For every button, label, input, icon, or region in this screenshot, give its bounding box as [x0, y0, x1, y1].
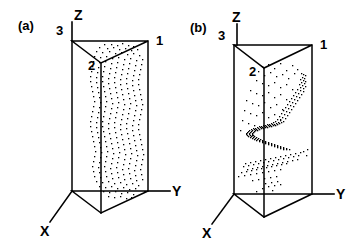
- scatter-point: [275, 121, 276, 122]
- scatter-point: [264, 102, 265, 103]
- scatter-point: [120, 129, 121, 130]
- scatter-point: [128, 113, 129, 114]
- scatter-point: [300, 87, 301, 88]
- scatter-point: [93, 171, 94, 172]
- scatter-point: [120, 196, 121, 197]
- panel-a-x-axis-arm: [50, 191, 72, 222]
- scatter-point: [93, 141, 94, 142]
- scatter-point: [254, 125, 255, 126]
- scatter-point: [99, 107, 100, 108]
- scatter-point: [120, 84, 121, 85]
- scatter-point: [279, 123, 280, 124]
- scatter-point: [130, 58, 131, 59]
- scatter-point: [104, 91, 105, 92]
- scatter-point: [305, 75, 306, 76]
- scatter-point: [106, 156, 107, 157]
- scatter-point: [268, 161, 269, 162]
- scatter-point: [290, 105, 291, 106]
- scatter-point: [256, 115, 257, 116]
- scatter-point: [108, 78, 109, 79]
- scatter-point: [132, 130, 133, 131]
- scatter-point: [127, 118, 128, 119]
- scatter-point: [242, 120, 243, 121]
- scatter-point: [138, 84, 139, 85]
- scatter-point: [262, 83, 263, 84]
- panel-b-vertex-1-label: 1: [320, 37, 327, 52]
- scatter-point: [293, 156, 294, 157]
- scatter-point: [141, 99, 142, 100]
- scatter-point: [135, 188, 136, 189]
- scatter-point: [114, 77, 115, 78]
- scatter-point: [250, 162, 251, 163]
- scatter-point: [105, 141, 106, 142]
- panel-b-top-face: [234, 45, 312, 68]
- scatter-point: [276, 76, 277, 77]
- scatter-point: [268, 117, 269, 118]
- scatter-point: [114, 82, 115, 83]
- scatter-point: [274, 68, 275, 69]
- scatter-point: [270, 107, 271, 108]
- scatter-point: [119, 152, 120, 153]
- scatter-point: [280, 87, 281, 88]
- scatter-point: [127, 192, 128, 193]
- scatter-point: [284, 114, 285, 115]
- scatter-point: [134, 95, 135, 96]
- scatter-point: [112, 58, 113, 59]
- scatter-point: [250, 90, 251, 91]
- scatter-point: [282, 109, 283, 110]
- scatter-point: [137, 155, 138, 156]
- scatter-point: [135, 165, 136, 166]
- scatter-point: [274, 146, 275, 147]
- scatter-point: [273, 122, 274, 123]
- scatter-point: [135, 175, 136, 176]
- scatter-point: [306, 155, 307, 156]
- scatter-point: [303, 88, 304, 89]
- scatter-point: [250, 137, 251, 138]
- scatter-point: [112, 178, 113, 179]
- scatter-point: [129, 98, 130, 99]
- scatter-point: [273, 125, 274, 126]
- panel-b-y-axis-label: Y: [336, 186, 346, 202]
- scatter-point: [120, 79, 121, 80]
- scatter-point: [115, 117, 116, 118]
- scatter-point: [99, 97, 100, 98]
- scatter-point: [252, 168, 253, 169]
- scatter-point: [255, 161, 256, 162]
- scatter-point: [286, 149, 287, 150]
- scatter-point: [131, 197, 132, 198]
- scatter-point: [292, 89, 293, 90]
- scatter-point: [283, 121, 284, 122]
- scatter-point: [118, 147, 119, 148]
- scatter-point: [102, 126, 103, 127]
- scatter-point: [272, 164, 273, 165]
- scatter-point: [265, 159, 266, 160]
- scatter-point: [267, 127, 268, 128]
- scatter-point: [281, 164, 282, 165]
- scatter-point: [97, 117, 98, 118]
- scatter-point: [109, 88, 110, 89]
- scatter-point: [252, 138, 253, 139]
- scatter-point: [126, 83, 127, 84]
- scatter-point: [143, 154, 144, 155]
- scatter-point: [281, 113, 282, 114]
- panel-a-scatter: [90, 43, 144, 199]
- scatter-point: [121, 119, 122, 120]
- scatter-point: [258, 163, 259, 164]
- scatter-point: [123, 109, 124, 110]
- scatter-point: [117, 142, 118, 143]
- scatter-point: [292, 102, 293, 103]
- panel-a-z-axis-label: Z: [74, 7, 83, 23]
- scatter-point: [252, 180, 253, 181]
- scatter-point: [128, 45, 129, 46]
- scatter-point: [262, 95, 263, 96]
- scatter-point: [286, 163, 287, 164]
- scatter-point: [124, 104, 125, 105]
- scatter-point: [115, 191, 116, 192]
- scatter-point: [111, 143, 112, 144]
- scatter-point: [100, 57, 101, 58]
- scatter-point: [122, 114, 123, 115]
- scatter-point: [285, 118, 286, 119]
- panel-b-x-axis-label: X: [202, 225, 212, 241]
- scatter-point: [291, 109, 292, 110]
- scatter-point: [282, 117, 283, 118]
